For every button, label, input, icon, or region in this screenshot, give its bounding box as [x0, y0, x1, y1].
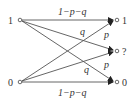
edge-label-top: 1−p−q	[58, 6, 87, 17]
edge-label-p-lower: p	[103, 59, 109, 70]
input-label-1: 1	[8, 15, 13, 26]
channel-diagram: 1 0 1 ? 0 1−p−q q p q p 1−p−q	[0, 0, 136, 102]
input-node-0	[18, 80, 22, 84]
edge-0-to-erasure	[22, 52, 113, 81]
edge-label-bottom: 1−p−q	[58, 87, 87, 98]
output-node-erasure	[115, 49, 119, 53]
output-node-0	[115, 80, 119, 84]
output-node-1	[115, 18, 119, 22]
input-label-0: 0	[8, 77, 13, 88]
output-label-erasure: ?	[122, 46, 127, 57]
output-label-0: 0	[122, 77, 127, 88]
edge-label-q-upper: q	[80, 26, 85, 37]
output-label-1: 1	[122, 15, 127, 26]
edge-1-to-erasure	[22, 21, 113, 50]
edge-label-q-lower: q	[84, 64, 89, 75]
edge-label-p-upper: p	[103, 29, 109, 40]
input-node-1	[18, 18, 22, 22]
